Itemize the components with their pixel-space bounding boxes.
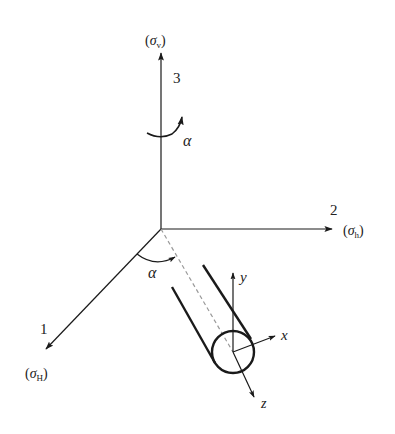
alpha-angle-arc: α	[137, 254, 175, 281]
local-y-label: y	[238, 269, 247, 285]
stress-coordinate-diagram: 3 (σv) α 2 (σh) 1 (σH) α y x z	[0, 0, 395, 434]
axis-1: 1 (σH)	[25, 229, 161, 383]
local-axes: y x z	[233, 269, 288, 411]
alpha-angle-label: α	[148, 264, 157, 281]
axis-1-line	[46, 229, 161, 349]
axis-2-number-label: 2	[330, 202, 338, 218]
axis-1-number-label: 1	[40, 321, 48, 337]
axis-3-number-label: 3	[173, 70, 181, 86]
local-z-label: z	[260, 396, 267, 411]
borehole-wall-lower	[172, 287, 215, 363]
local-z-axis	[233, 352, 254, 397]
axis-2-stress-label: (σh)	[343, 223, 364, 240]
axis-1-stress-label: (σH)	[25, 366, 48, 383]
rotation-arrow-icon: α	[147, 117, 192, 149]
alpha-rotation-label: α	[183, 132, 192, 149]
local-x-label: x	[280, 327, 288, 343]
axis-2: 2 (σh)	[161, 202, 364, 240]
axis-3-stress-label: (σv)	[145, 33, 166, 50]
